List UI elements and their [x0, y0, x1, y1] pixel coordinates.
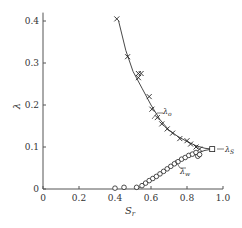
y-tick-label: 0.2 — [25, 100, 39, 110]
x-tick-label: 0.6 — [144, 193, 159, 203]
x-tick-label: 1.0 — [216, 193, 231, 203]
y-axis-label: λ — [11, 103, 22, 110]
square-marker — [210, 147, 215, 152]
x-tick-label: 0 — [40, 193, 46, 203]
tick-labels: 00.20.40.60.81.000.10.20.30.4 — [25, 16, 231, 203]
svg-text:λS: λS — [224, 145, 234, 155]
axes — [43, 13, 223, 189]
x-tick-label: 0.2 — [72, 193, 86, 203]
y-tick-label: 0.1 — [25, 142, 39, 152]
series-line — [119, 21, 213, 149]
y-tick-label: 0.4 — [25, 16, 40, 26]
circle-marker — [122, 185, 127, 190]
cross-marker — [136, 71, 141, 76]
cross-marker — [165, 126, 170, 131]
circle-marker — [113, 186, 118, 191]
series-layer — [113, 16, 215, 190]
circle-marker — [197, 152, 202, 157]
circle-marker — [134, 185, 139, 190]
annotation-lambda-o: λo — [152, 107, 172, 119]
chart: 00.20.40.60.81.000.10.20.30.4 Sr λ λo λw… — [0, 0, 242, 228]
x-tick-label: 0.4 — [108, 193, 123, 203]
x-tick-label: 0.8 — [180, 193, 195, 203]
cross-marker — [147, 94, 152, 99]
svg-text:λo: λo — [162, 107, 172, 117]
cross-marker — [139, 71, 144, 76]
x-axis-label: Sr — [125, 205, 136, 218]
svg-text:λw: λw — [179, 167, 191, 177]
y-tick-label: 0 — [33, 184, 39, 194]
cross-marker — [114, 16, 119, 21]
cross-marker — [170, 131, 175, 136]
annotation-lambda-s: λS — [217, 145, 234, 155]
y-tick-label: 0.3 — [25, 58, 40, 68]
